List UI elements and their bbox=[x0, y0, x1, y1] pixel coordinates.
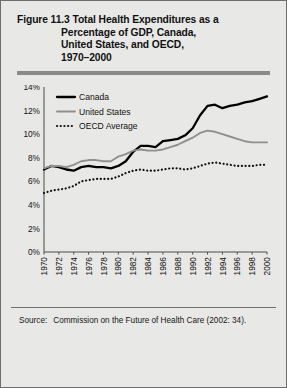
y-axis-tick-label: 6% bbox=[28, 177, 41, 187]
y-axis-tick-label: 12% bbox=[23, 106, 40, 116]
x-axis-tick-label: 1972 bbox=[54, 257, 64, 276]
x-axis-tick-label: 2000 bbox=[262, 257, 272, 276]
x-axis-tick-label: 1988 bbox=[173, 257, 183, 276]
y-axis-tick-label: 14% bbox=[23, 85, 40, 92]
x-axis-tick-label: 1998 bbox=[247, 257, 257, 276]
x-axis-tick-label: 1984 bbox=[143, 257, 153, 276]
chart-area: 0%2%4%6%8%10%12%14%197019721974197619781… bbox=[1, 85, 287, 307]
source-text: Commission on the Future of Health Care … bbox=[53, 315, 272, 326]
y-axis-tick-label: 0% bbox=[28, 248, 41, 258]
x-axis-tick-label: 1992 bbox=[203, 257, 213, 276]
source-label: Source: bbox=[19, 315, 47, 326]
series-line-oecd-average bbox=[44, 163, 267, 194]
y-axis-tick-label: 10% bbox=[23, 130, 40, 140]
x-axis-tick-label: 1974 bbox=[69, 257, 79, 276]
source-note: Source: Commission on the Future of Heal… bbox=[1, 308, 286, 326]
series-line-united-states bbox=[44, 131, 267, 169]
title-divider-rule bbox=[17, 71, 270, 75]
page-title: Figure 11.3 Total Health Expenditures as… bbox=[17, 14, 272, 64]
x-axis-tick-label: 1976 bbox=[84, 257, 94, 276]
x-axis-tick-label: 1978 bbox=[99, 257, 109, 276]
x-axis-tick-label: 1990 bbox=[188, 257, 198, 276]
figure-title-block: Figure 11.3 Total Health Expenditures as… bbox=[1, 1, 286, 64]
x-axis-tick-label: 1996 bbox=[232, 257, 242, 276]
line-chart: 0%2%4%6%8%10%12%14%197019721974197619781… bbox=[1, 85, 287, 307]
legend-label-oecd-average: OECD Average bbox=[79, 122, 138, 132]
y-axis-tick-label: 2% bbox=[28, 224, 41, 234]
series-line-canada bbox=[44, 97, 267, 171]
x-axis-tick-label: 1980 bbox=[113, 257, 123, 276]
legend-label-united-states: United States bbox=[79, 107, 131, 117]
figure-container: Figure 11.3 Total Health Expenditures as… bbox=[0, 0, 287, 388]
title-line-1: Figure 11.3 Total Health Expenditures as… bbox=[17, 14, 272, 27]
y-axis-tick-label: 8% bbox=[28, 153, 41, 163]
x-axis-tick-label: 1982 bbox=[128, 257, 138, 276]
legend-label-canada: Canada bbox=[79, 93, 109, 103]
title-line-2: Percentage of GDP, Canada, bbox=[17, 27, 272, 40]
x-axis-tick-label: 1994 bbox=[218, 257, 228, 276]
title-line-3: United States, and OECD, bbox=[17, 39, 272, 52]
x-axis-tick-label: 1970 bbox=[39, 257, 49, 276]
x-axis-tick-label: 1986 bbox=[158, 257, 168, 276]
y-axis-tick-label: 4% bbox=[28, 200, 41, 210]
title-line-4: 1970–2000 bbox=[17, 52, 272, 65]
